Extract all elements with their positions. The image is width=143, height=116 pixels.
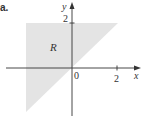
y-tick-label: 2: [63, 13, 68, 24]
problem-label: a.: [0, 2, 9, 13]
y-axis-arrow-icon: [70, 2, 75, 9]
region-label: R: [49, 41, 57, 53]
region-diagram: a. y 2 R 0 2 x: [0, 0, 143, 116]
y-axis-label: y: [61, 1, 67, 12]
origin-label: 0: [74, 70, 79, 81]
x-axis-label: x: [133, 70, 139, 81]
x-tick-label: 2: [114, 73, 119, 84]
